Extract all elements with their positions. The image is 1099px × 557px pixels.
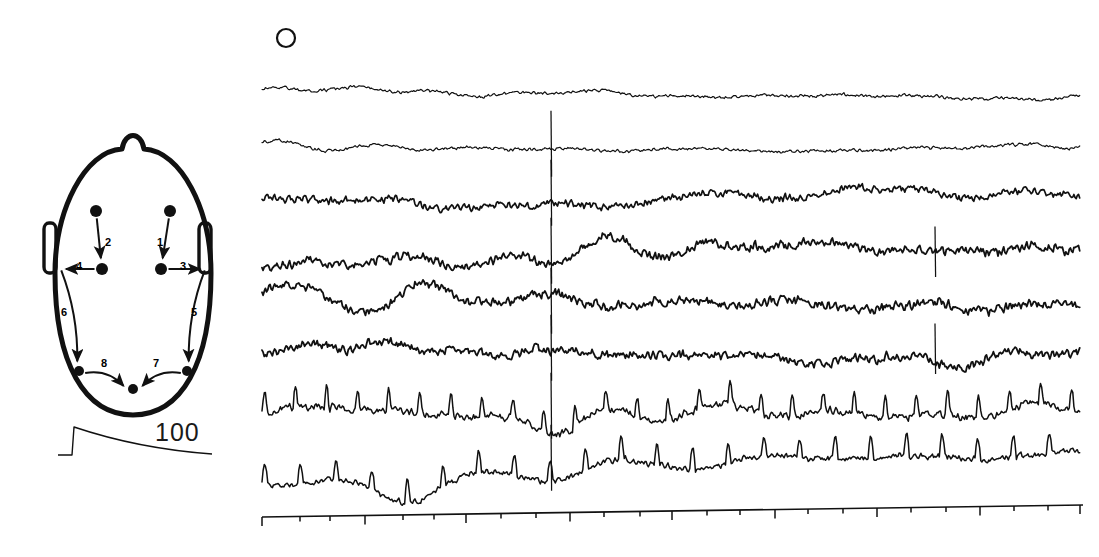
eeg-figure: 100 12345678 — [0, 0, 1099, 557]
artifact-spike-1-ch8 — [551, 425, 552, 491]
eeg-trace-2 — [262, 139, 1080, 153]
artifact-spike-2-ch6 — [935, 323, 936, 374]
eeg-trace-4 — [262, 233, 1080, 271]
figure-canvas — [0, 0, 1099, 557]
eeg-trace-3 — [262, 184, 1080, 213]
eeg-trace-8 — [262, 433, 1080, 505]
artifact-spike-2-ch4 — [935, 226, 936, 277]
derivation-label-3: 3 — [180, 261, 186, 272]
eeg-trace-7 — [262, 381, 1080, 437]
artifact-spike-1-ch3 — [551, 160, 552, 226]
artifact-spike-1-ch6 — [551, 315, 552, 381]
derivation-arrow-2 — [97, 218, 101, 258]
time-axis — [262, 505, 1083, 526]
eeg-trace-6 — [262, 338, 1080, 372]
derivation-label-5: 5 — [191, 307, 197, 318]
electrode-rc — [155, 263, 167, 275]
eeg-traces — [262, 86, 1080, 506]
derivation-arrow-8 — [85, 372, 123, 386]
panel-marker — [277, 29, 295, 47]
derivation-arrow-7 — [142, 372, 180, 386]
electrode-rf — [164, 205, 176, 217]
derivation-label-2: 2 — [105, 237, 111, 248]
electrode-lf — [90, 205, 102, 217]
derivation-label-7: 7 — [153, 358, 159, 369]
derivation-label-8: 8 — [101, 358, 107, 369]
electrode-oz — [128, 384, 138, 394]
derivation-arrow-1 — [163, 218, 169, 258]
electrode-lt — [74, 366, 84, 376]
electrode-lc — [96, 263, 108, 275]
head-diagram — [44, 136, 211, 416]
eeg-trace-5 — [262, 280, 1080, 316]
panel-marker-circle-icon — [277, 29, 295, 47]
calibration-value: 100 — [155, 418, 200, 447]
derivation-label-4: 4 — [76, 261, 82, 272]
electrode-rt — [182, 366, 192, 376]
derivation-label-1: 1 — [157, 237, 163, 248]
eeg-trace-1 — [262, 86, 1080, 101]
derivation-label-6: 6 — [61, 307, 67, 318]
